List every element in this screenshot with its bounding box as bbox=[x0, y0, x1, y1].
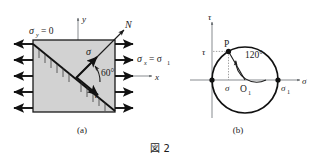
sigma1-subscript: 1 bbox=[287, 88, 290, 95]
left-load-arrows bbox=[14, 44, 33, 108]
figure-caption: 図 2 bbox=[150, 143, 170, 154]
circle-center-subscript: 1 bbox=[248, 89, 251, 96]
sigma-y-equals-zero: = 0 bbox=[41, 26, 54, 36]
tau-value-label: τ bbox=[202, 47, 206, 57]
sigma1-point-marker bbox=[275, 77, 280, 82]
circle-center-label: O bbox=[240, 84, 247, 94]
origin-point-marker bbox=[209, 77, 214, 82]
panel-b-group: τ σ P τ σ O 1 σ 1 120° (b) bbox=[190, 12, 307, 135]
point-p-marker bbox=[226, 49, 231, 54]
sigma-x-equals-subscript: 1 bbox=[167, 59, 170, 66]
sigma-x-equals: = σ bbox=[149, 54, 162, 64]
tau-axis-label: τ bbox=[208, 12, 212, 22]
right-load-arrows bbox=[115, 44, 133, 108]
angle-120-label: 120° bbox=[245, 50, 263, 60]
tau-arrow-label: τ bbox=[94, 89, 98, 100]
figure-container: σ y = 0 σ x = σ 1 y x N σ τ 60° (a) bbox=[0, 0, 321, 158]
panel-a-label: (a) bbox=[77, 125, 87, 135]
sigma-y-label: σ bbox=[29, 25, 35, 36]
sigma-x-label: σ bbox=[137, 53, 143, 64]
y-axis-label: y bbox=[81, 14, 86, 24]
panel-a-group: σ y = 0 σ x = σ 1 y x N σ τ 60° (a) bbox=[14, 14, 170, 135]
figure-svg: σ y = 0 σ x = σ 1 y x N σ τ 60° (a) bbox=[0, 0, 321, 158]
normal-n-label: N bbox=[124, 19, 133, 30]
sigma-y-subscript: y bbox=[35, 31, 39, 38]
point-p-label: P bbox=[224, 39, 229, 49]
sigma-x-subscript: x bbox=[143, 59, 147, 66]
sigma1-label: σ bbox=[281, 83, 286, 93]
angle-60-label: 60° bbox=[101, 68, 115, 78]
x-axis-label: x bbox=[154, 72, 159, 82]
sigma-axis-label: σ bbox=[302, 76, 307, 86]
sigma-value-label: σ bbox=[225, 83, 230, 93]
panel-b-label: (b) bbox=[233, 125, 244, 135]
